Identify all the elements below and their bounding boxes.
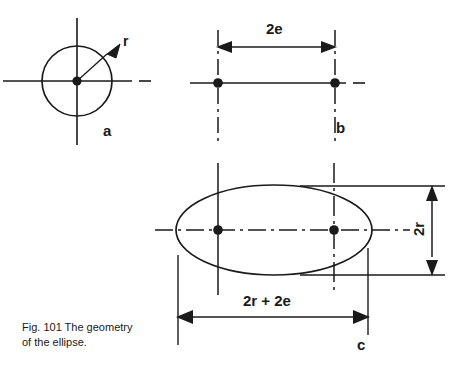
panel-b-focus-right-dot	[330, 78, 340, 88]
radius-line	[77, 54, 107, 81]
diagram-canvas	[0, 0, 469, 370]
dimension-2r-bottom-arrowhead-icon	[426, 260, 438, 276]
caption-line-1: Fig. 101 The geometry	[22, 321, 132, 333]
figure-ellipse-geometry: r a 2e b 2r 2r + 2e c Fig. 101 The geome…	[0, 0, 469, 370]
dimension-2r-top-arrowhead-icon	[426, 185, 438, 201]
label-part-b: b	[336, 120, 345, 135]
caption-line-2: of the ellipse.	[22, 336, 87, 348]
figure-caption: Fig. 101 The geometry of the ellipse.	[22, 320, 192, 350]
label-part-a: a	[103, 123, 111, 138]
radius-arrowhead-icon	[107, 44, 120, 58]
circle-center-dot	[72, 76, 81, 85]
label-dimension-2e: 2e	[266, 21, 283, 36]
label-dimension-2r: 2r	[411, 222, 426, 236]
panel-c-group	[155, 163, 445, 345]
label-part-c: c	[357, 337, 365, 352]
label-radius-r: r	[123, 34, 128, 48]
panel-c-focus-left-dot	[213, 225, 223, 235]
panel-b-focus-left-dot	[213, 78, 223, 88]
label-dimension-2r-2e: 2r + 2e	[243, 293, 291, 308]
panel-c-focus-right-dot	[329, 225, 339, 235]
panel-a-group	[3, 18, 151, 145]
